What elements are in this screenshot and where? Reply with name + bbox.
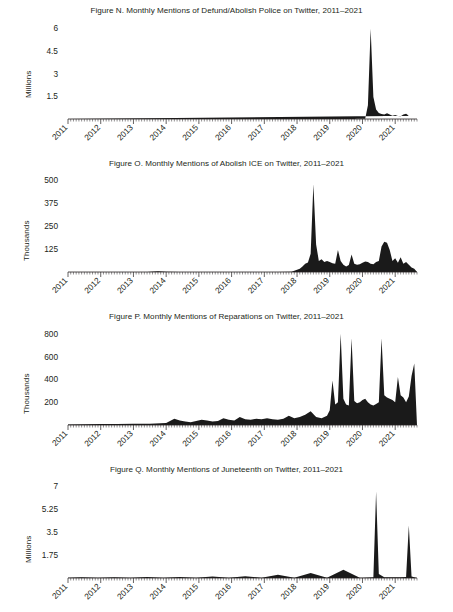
- series-area: [68, 491, 417, 578]
- x-tick-label: 2017: [246, 275, 266, 295]
- x-tick-label: 2021: [376, 275, 396, 295]
- x-tick-label: 2011: [50, 275, 70, 295]
- y-tick-label: 600: [44, 352, 58, 362]
- x-tick-label: 2011: [50, 581, 70, 601]
- x-tick-label: 2014: [147, 275, 167, 295]
- y-tick-label: 1.5: [46, 91, 58, 101]
- y-tick-label: 5.25: [42, 504, 59, 514]
- x-tick-label: 2016: [213, 275, 233, 295]
- x-tick-label: 2011: [50, 122, 70, 142]
- figure-q-plot: 1.753.55.2572011201220132014201520162017…: [0, 459, 453, 612]
- y-tick-label: 800: [44, 329, 58, 339]
- x-tick-label: 2014: [147, 581, 167, 601]
- y-tick-label: 1.75: [42, 550, 59, 560]
- x-tick-label: 2013: [115, 428, 135, 448]
- x-tick-label: 2014: [147, 428, 167, 448]
- y-tick-label: 250: [44, 221, 58, 231]
- x-tick-label: 2015: [180, 275, 200, 295]
- x-tick-label: 2020: [344, 122, 364, 142]
- x-tick-label: 2012: [82, 581, 102, 601]
- x-tick-label: 2016: [213, 428, 233, 448]
- x-tick-label: 2015: [180, 581, 200, 601]
- figures-page: Figure N. Monthly Mentions of Defund/Abo…: [0, 0, 453, 612]
- x-tick-label: 2018: [278, 581, 298, 601]
- y-tick-label: 125: [44, 244, 58, 254]
- x-tick-label: 2013: [115, 122, 135, 142]
- x-tick-label: 2011: [50, 428, 70, 448]
- y-tick-label: 3: [53, 69, 58, 79]
- y-tick-label: 375: [44, 198, 58, 208]
- x-tick-label: 2012: [82, 275, 102, 295]
- x-tick-label: 2019: [311, 122, 331, 142]
- x-tick-label: 2020: [344, 428, 364, 448]
- x-tick-label: 2019: [311, 581, 331, 601]
- x-tick-label: 2016: [213, 122, 233, 142]
- y-tick-label: 3.5: [46, 527, 58, 537]
- x-tick-label: 2012: [82, 428, 102, 448]
- y-tick-label: 500: [44, 175, 58, 185]
- figure-o-plot: 1252503755002011201220132014201520162017…: [0, 153, 453, 306]
- y-tick-label: 7: [53, 481, 58, 491]
- series-area: [68, 29, 409, 119]
- x-tick-label: 2021: [376, 428, 396, 448]
- series-area: [68, 184, 417, 272]
- x-tick-label: 2015: [180, 428, 200, 448]
- x-tick-label: 2015: [180, 122, 200, 142]
- x-tick-label: 2012: [82, 122, 102, 142]
- x-tick-label: 2020: [344, 275, 364, 295]
- x-tick-label: 2013: [115, 275, 135, 295]
- x-tick-label: 2018: [278, 275, 298, 295]
- x-tick-label: 2018: [278, 428, 298, 448]
- x-tick-label: 2013: [115, 581, 135, 601]
- x-tick-label: 2017: [246, 122, 266, 142]
- x-tick-label: 2017: [246, 428, 266, 448]
- x-tick-label: 2021: [376, 122, 396, 142]
- y-tick-label: 200: [44, 397, 58, 407]
- x-tick-label: 2017: [246, 581, 266, 601]
- figure-o-container: Figure O. Monthly Mentions of Abolish IC…: [0, 153, 453, 306]
- figure-p-container: Figure P. Monthly Mentions of Reparation…: [0, 306, 453, 459]
- figure-q-container: Figure Q. Monthly Mentions of Juneteenth…: [0, 459, 453, 612]
- series-area: [68, 334, 417, 425]
- x-tick-label: 2014: [147, 122, 167, 142]
- x-tick-label: 2019: [311, 275, 331, 295]
- x-tick-label: 2018: [278, 122, 298, 142]
- x-tick-label: 2016: [213, 581, 233, 601]
- figure-n-plot: 1.534.5620112012201320142015201620172018…: [0, 0, 453, 153]
- figure-p-plot: 2004006008002011201220132014201520162017…: [0, 306, 453, 459]
- y-tick-label: 400: [44, 374, 58, 384]
- x-tick-label: 2020: [344, 581, 364, 601]
- figure-n-container: Figure N. Monthly Mentions of Defund/Abo…: [0, 0, 453, 153]
- x-tick-label: 2021: [376, 581, 396, 601]
- x-tick-label: 2019: [311, 428, 331, 448]
- y-tick-label: 4.5: [46, 46, 58, 56]
- y-tick-label: 6: [53, 23, 58, 33]
